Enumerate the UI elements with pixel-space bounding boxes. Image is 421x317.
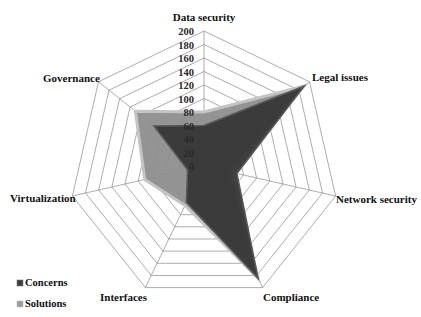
axis-label-governance: Governance [43,72,100,84]
legend-item-concerns[interactable]: Concerns [17,277,68,288]
legend-label-solutions: Solutions [25,298,66,309]
axis-label-compliance: Compliance [263,291,319,303]
axis-label-interfaces: Interfaces [100,291,148,303]
legend-swatch-concerns [17,280,23,286]
tick-label-120: 120 [178,80,194,91]
radar-chart: 0 20 40 60 80 100 120 140 160 180 200 Da… [0,0,421,317]
radar-series [135,86,304,279]
legend: Concerns Solutions [17,277,68,309]
axis-label-network-security: Network security [336,193,417,205]
tick-label-100: 100 [178,94,194,105]
axis-label-virtualization: Virtualization [10,192,76,204]
tick-label-60: 60 [184,121,195,132]
legend-swatch-solutions [17,301,23,307]
tick-label-40: 40 [184,134,195,145]
legend-label-concerns: Concerns [25,277,68,288]
legend-item-solutions[interactable]: Solutions [17,298,66,309]
tick-label-140: 140 [178,67,194,78]
axis-label-data-security: Data security [173,11,236,23]
tick-label-20: 20 [184,148,195,159]
tick-label-0: 0 [189,161,194,172]
tick-label-200: 200 [178,26,194,37]
tick-label-180: 180 [178,40,194,51]
tick-label-160: 160 [178,53,194,64]
tick-label-80: 80 [184,107,195,118]
axis-label-legal-issues: Legal issues [312,71,369,83]
